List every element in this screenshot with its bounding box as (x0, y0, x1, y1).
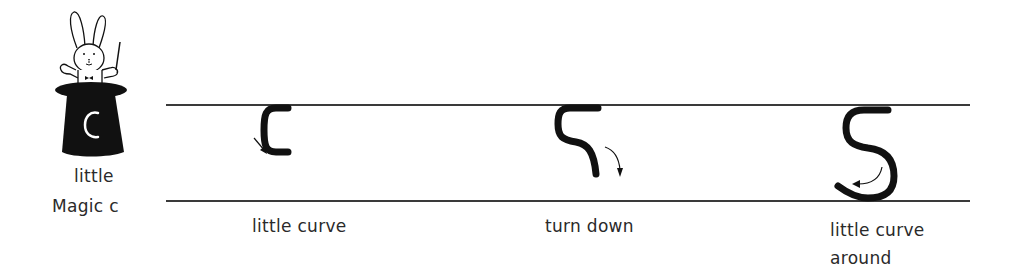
mascot-caption-line1: little (74, 162, 114, 190)
step-label-little-curve: little curve (252, 212, 347, 240)
turn-down-stroke-icon (530, 100, 640, 190)
mascot-caption-line2: Magic c (52, 192, 119, 220)
rabbit-icon (0, 0, 160, 165)
step-label-little-curve-around-line2: around (830, 244, 892, 272)
little-curve-around-stroke-icon (820, 100, 930, 210)
step-label-little-curve-around-line1: little curve (830, 216, 925, 244)
step-label-turn-down: turn down (545, 212, 634, 240)
little-curve-stroke-icon (240, 100, 320, 170)
